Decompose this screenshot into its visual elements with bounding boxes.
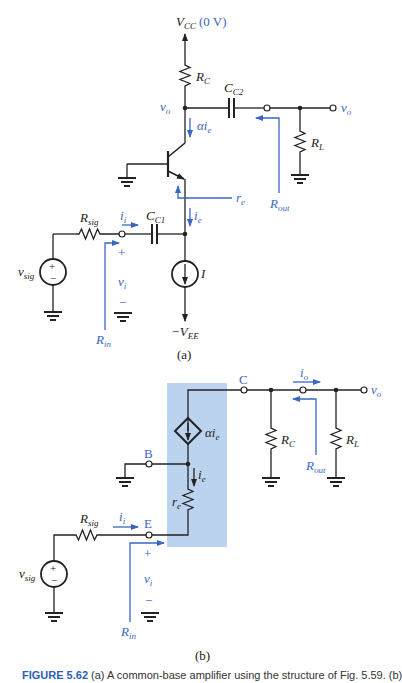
ground-icon (291, 175, 309, 183)
vo-node-label: vo (160, 99, 171, 116)
rl-label: RL (310, 135, 324, 152)
rin-label: Rin (95, 332, 111, 349)
circuit-b: C vo io Rout RC RL αie B ie (19, 365, 382, 663)
ground-icon (44, 312, 62, 320)
figure-number: FIGURE 5.62 (22, 669, 88, 681)
rout-label-b: Rout (305, 458, 326, 475)
ground-icon (262, 478, 280, 486)
panel-b-label: (b) (195, 648, 210, 663)
rl-label-b: RL (345, 432, 359, 449)
vsig-label: vsig (18, 264, 35, 281)
rc-resistor-icon (266, 390, 276, 478)
re-label: re (236, 190, 245, 207)
e-terminal-label: E (144, 516, 152, 531)
figure-caption: FIGURE 5.62 (a) A common-base amplifier … (22, 669, 402, 681)
svg-text:+: + (49, 260, 55, 272)
vi-label: vi (118, 274, 127, 291)
ground-icon (114, 313, 132, 321)
c-terminal (241, 387, 247, 393)
rc-resistor-icon (180, 62, 190, 108)
rsig-label-b: Rsig (79, 511, 99, 528)
rc-label: RC (195, 69, 211, 86)
rsig-label: Rsig (79, 210, 99, 227)
ie-label: ie (194, 208, 202, 225)
ground-icon (118, 178, 136, 186)
rout-label: Rout (269, 196, 290, 213)
ii-label: ii (120, 208, 127, 225)
current-source-label: I (200, 266, 206, 281)
rsig-resistor-icon (76, 229, 119, 239)
rsig-resistor-icon (54, 530, 100, 560)
svg-text:−: − (51, 574, 57, 586)
circuit-a: VCC(0 V) RC vo CC2 vo RL Rout αie (18, 14, 352, 362)
io-label: io (300, 365, 309, 382)
rl-resistor-icon (295, 108, 305, 175)
ground-icon (327, 478, 345, 486)
vi-plus: + (118, 245, 125, 260)
ii-label-b: ii (119, 509, 126, 526)
svg-text:−: − (50, 272, 56, 284)
output-terminal-a (264, 105, 270, 111)
ground-icon (116, 478, 134, 486)
rl-resistor-icon (331, 390, 341, 478)
panel-a-label: (a) (177, 347, 191, 362)
vi-label-b: vi (144, 571, 153, 588)
ground-icon (45, 613, 63, 621)
e-terminal (146, 532, 152, 538)
vo-output-label: vo (341, 100, 352, 117)
ground-icon (141, 613, 159, 621)
vsig-label-b: vsig (19, 566, 36, 583)
b-terminal-label: B (144, 446, 153, 461)
vi-plus-b: + (144, 546, 151, 561)
rout-arrow-icon (293, 399, 316, 455)
rc-label-b: RC (280, 432, 296, 449)
rin-arrow-icon (105, 243, 119, 330)
vo-label-b: vo (371, 382, 382, 399)
vi-minus-b: − (145, 593, 152, 608)
svg-text:+: + (50, 562, 56, 574)
rout-arrow-icon (256, 118, 279, 193)
c-terminal-label: C (239, 372, 248, 387)
re-arrow-icon (178, 186, 232, 198)
bjt-transistor-icon (127, 143, 185, 179)
caption-text: (a) A common-base amplifier using the st… (91, 669, 402, 681)
vcc-label: VCC(0 V) (176, 14, 227, 31)
b-terminal (146, 461, 152, 467)
output-terminal-b (300, 387, 306, 393)
cc2-label: CC2 (224, 80, 244, 97)
rin-label-b: Rin (120, 624, 136, 641)
vee-label: −VEE (171, 324, 199, 341)
alpha-ie-label: αie (197, 118, 211, 135)
cc1-label: CC1 (146, 208, 165, 225)
input-terminal-a (119, 231, 125, 237)
vi-minus: − (119, 295, 126, 310)
transistor-model-box (167, 383, 227, 547)
